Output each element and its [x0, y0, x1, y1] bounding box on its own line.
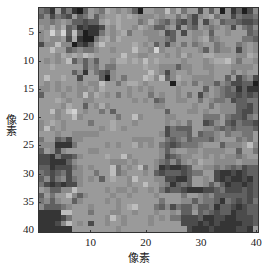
heatmap-plot-area: [38, 7, 259, 233]
x-tick-mark: [90, 230, 91, 233]
y-tick-mark: [38, 145, 41, 146]
y-tick-label: 30: [0, 168, 34, 179]
x-tick-mark: [256, 230, 257, 233]
y-tick-label: 15: [0, 83, 34, 94]
y-tick-label: 40: [0, 224, 34, 235]
x-tick-label: 20: [134, 236, 158, 248]
x-tick-label: 10: [78, 236, 102, 248]
y-tick-label: 35: [0, 196, 34, 207]
y-tick-mark: [38, 61, 41, 62]
x-tick-label: 40: [244, 236, 265, 248]
y-tick-label: 25: [0, 139, 34, 150]
y-tick-label: 20: [0, 111, 34, 122]
y-tick-label: 5: [0, 26, 34, 37]
y-tick-mark: [38, 32, 41, 33]
y-tick-mark: [38, 174, 41, 175]
y-tick-label: 10: [0, 55, 34, 66]
x-tick-mark: [201, 230, 202, 233]
x-tick-mark: [146, 230, 147, 233]
y-tick-mark: [38, 89, 41, 90]
y-tick-mark: [38, 202, 41, 203]
y-tick-mark: [38, 117, 41, 118]
x-tick-label: 30: [189, 236, 213, 248]
y-tick-mark: [38, 230, 41, 231]
x-axis-label: 像素: [128, 249, 150, 263]
